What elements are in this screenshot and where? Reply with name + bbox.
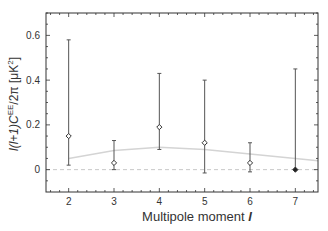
y-tick-label: 0.4 — [26, 75, 40, 86]
x-axis-label: Multipole moment l — [142, 209, 252, 224]
x-tick-label: 3 — [111, 196, 117, 207]
cl-ee-chart: 23456700.20.40.6 Multipole moment l l(l+… — [0, 0, 328, 231]
x-tick-label: 4 — [157, 196, 163, 207]
x-tick-label: 2 — [66, 196, 72, 207]
y-tick-label: 0.6 — [26, 30, 40, 41]
y-tick-label: 0 — [34, 164, 40, 175]
x-tick-label: 7 — [293, 196, 299, 207]
y-axis-label: l(l+1)CEE​/2π [μK2] — [6, 57, 21, 151]
y-tick-label: 0.2 — [26, 119, 40, 130]
x-tick-label: 5 — [202, 196, 208, 207]
x-tick-label: 6 — [247, 196, 253, 207]
